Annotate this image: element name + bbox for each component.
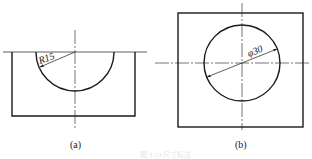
radius-dimension-text: R15 [36,50,56,66]
technical-drawing: R15 (a) φ30 (b) 图 3-13 尺寸标注 [0,0,312,159]
panel-b: φ30 (b) [155,3,310,151]
block-outline [12,52,135,116]
diameter-dimension-text: φ30 [246,43,265,59]
panel-a: R15 (a) [3,30,147,151]
figure-caption: 图 3-13 尺寸标注 [140,150,191,159]
panel-b-label: (b) [235,139,247,151]
panel-a-label: (a) [70,139,81,151]
square-plate-outline [178,13,303,127]
